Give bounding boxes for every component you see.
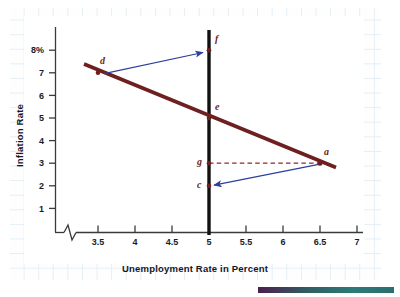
y-tick-label-5: 5: [22, 113, 44, 123]
y-tick-label-4: 4: [22, 136, 44, 146]
point-label-d: d: [100, 55, 105, 66]
point-label-f: f: [215, 33, 218, 44]
point-marker-f: [207, 48, 212, 53]
x-tick-label-6: 6: [268, 237, 298, 247]
point-marker-c: [207, 184, 212, 189]
point-marker-d: [96, 71, 101, 76]
point-marker-a: [318, 161, 323, 166]
point-label-e: e: [215, 101, 219, 112]
x-tick-label-7: 7: [342, 237, 372, 247]
y-tick-label-1: 1: [22, 204, 44, 214]
x-tick-label-6p5: 6.5: [305, 237, 335, 247]
x-tick-label-5: 5: [194, 237, 224, 247]
point-label-g: g: [197, 156, 202, 167]
point-marker-g: [207, 161, 212, 166]
phillips-curve-chart: [0, 0, 400, 297]
point-marker-e: [207, 116, 212, 121]
chart-figure: 1 2 3 4 5 6 7 8% 3.5 4 4.5 5 5.5 6 6.5 7…: [0, 0, 400, 297]
point-label-a: a: [324, 146, 329, 157]
y-tick-label-6: 6: [22, 91, 44, 101]
y-axis-title: Inflation Rate: [14, 86, 25, 186]
y-tick-label-7: 7: [22, 68, 44, 78]
x-axis-title: Unemployment Rate in Percent: [0, 263, 390, 274]
x-tick-label-5p5: 5.5: [231, 237, 261, 247]
x-tick-label-3p5: 3.5: [83, 237, 113, 247]
y-tick-label-8: 8%: [18, 45, 44, 55]
point-label-c: c: [197, 179, 201, 190]
x-tick-label-4p5: 4.5: [157, 237, 187, 247]
axis-break-zigzag: [64, 225, 76, 240]
y-tick-label-3: 3: [22, 158, 44, 168]
arrow-d-to-f: [104, 53, 203, 74]
y-tick-label-2: 2: [22, 181, 44, 191]
decorative-bottom-bar: [258, 287, 394, 293]
axes: [49, 27, 363, 240]
arrow-a-to-c: [214, 164, 320, 185]
x-tick-label-4: 4: [120, 237, 150, 247]
